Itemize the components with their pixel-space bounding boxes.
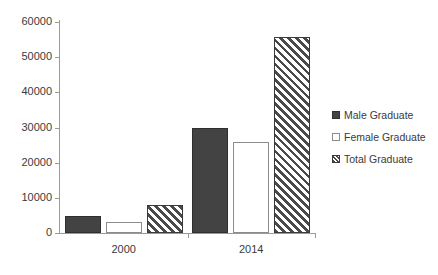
legend-label: Female Graduate: [344, 132, 426, 143]
y-axis-tick-label: 30000: [4, 122, 52, 133]
x-axis-end-tick: [315, 233, 316, 238]
bar-female-graduate-2014: [233, 142, 269, 233]
bar-total-graduate-2014: [274, 37, 310, 233]
y-axis-tick-label: 10000: [4, 192, 52, 203]
legend-swatch-icon: [332, 155, 340, 163]
y-axis-tick-label: 50000: [4, 51, 52, 62]
x-axis-category-separator: [188, 233, 189, 238]
legend-swatch-icon: [332, 133, 340, 141]
legend-item-total-graduate: Total Graduate: [332, 148, 436, 170]
bar-chart: 6000050000400003000020000100000 20002014…: [0, 0, 438, 275]
y-axis-tick-label: 0: [4, 227, 52, 238]
y-axis-tick-label: 60000: [4, 16, 52, 27]
plot-area: [60, 22, 315, 233]
x-axis-category-label: 2014: [196, 243, 306, 255]
legend-item-male-graduate: Male Graduate: [332, 104, 436, 126]
legend-label: Total Graduate: [344, 154, 413, 165]
y-axis-tick-label: 40000: [4, 86, 52, 97]
legend-label: Male Graduate: [344, 110, 413, 121]
legend-swatch-icon: [332, 111, 340, 119]
legend-item-female-graduate: Female Graduate: [332, 126, 436, 148]
bar-male-graduate-2014: [192, 128, 228, 233]
bar-male-graduate-2000: [65, 216, 101, 233]
x-axis-category-label: 2000: [69, 243, 179, 255]
chart-legend: Male GraduateFemale GraduateTotal Gradua…: [332, 104, 436, 170]
bar-female-graduate-2000: [106, 222, 142, 233]
bar-total-graduate-2000: [147, 205, 183, 233]
y-axis-tick-label: 20000: [4, 157, 52, 168]
